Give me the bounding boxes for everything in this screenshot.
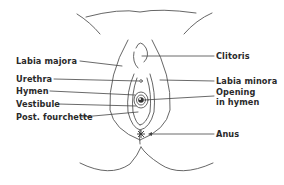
label-anus: Anus	[216, 130, 239, 139]
right-thigh-top-curve	[184, 13, 212, 34]
label-post-fourchette: Post. fourchette	[16, 113, 93, 122]
anus-mark	[137, 130, 145, 138]
left-buttock-curve	[80, 147, 141, 171]
labia-majora-right	[140, 40, 170, 140]
hymen-opening	[138, 97, 144, 103]
leader-urethra	[54, 79, 139, 81]
clitoral-hood	[136, 43, 148, 62]
label-opening-in-hymen-2: in hymen	[216, 98, 259, 107]
anatomy-diagram: Labia majora Urethra Hymen Vestibule Pos…	[0, 0, 284, 185]
label-clitoris: Clitoris	[216, 52, 250, 61]
label-labia-minora: Labia minora	[216, 77, 277, 86]
label-hymen: Hymen	[16, 87, 49, 96]
label-opening-in-hymen-1: Opening	[216, 88, 255, 97]
label-vestibule: Vestibule	[16, 100, 60, 109]
abdomen-curve	[86, 10, 196, 17]
leader-vestibule	[58, 104, 136, 106]
labia-majora-left	[110, 40, 140, 140]
label-labia-majora: Labia majora	[16, 57, 77, 66]
leader-labia-majora	[80, 61, 122, 66]
left-thigh-top-curve	[77, 14, 100, 34]
label-urethra: Urethra	[16, 75, 52, 84]
urethra-mark	[140, 80, 143, 83]
leader-hymen	[50, 91, 135, 95]
right-buttock-curve	[141, 147, 213, 171]
